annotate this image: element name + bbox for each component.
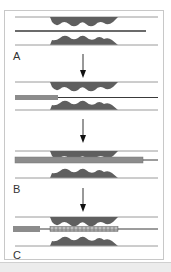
down-arrow-icon (80, 54, 86, 78)
panel-c (13, 217, 158, 246)
panel-b (15, 151, 158, 178)
down-arrow-icon (80, 119, 86, 143)
balloon-catheter (15, 95, 58, 100)
inflated-balloon (15, 157, 143, 163)
plaque-top (50, 82, 118, 91)
panel-a (15, 17, 158, 45)
plaque-bottom (50, 169, 118, 178)
plaque-top (50, 217, 118, 226)
panel-label-a: A (13, 50, 20, 62)
catheter (13, 226, 40, 232)
plaque-bottom (50, 101, 118, 110)
panel-catheter-advance (15, 82, 158, 110)
down-arrow-icon (80, 188, 86, 212)
panel-label-b: B (13, 183, 20, 195)
plaque-bottom (50, 237, 118, 246)
plaque-top (50, 17, 118, 26)
stent (50, 227, 118, 232)
panel-label-c: C (13, 249, 21, 261)
plaque-bottom (50, 36, 118, 45)
